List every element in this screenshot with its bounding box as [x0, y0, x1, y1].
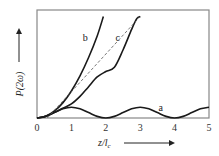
curve-c	[37, 16, 140, 118]
curve-b	[37, 16, 103, 118]
x-tick-label: 3	[138, 122, 143, 133]
series-layer	[37, 16, 209, 118]
curve-c-average	[47, 16, 140, 118]
x-tick-label: 2	[103, 122, 108, 133]
y-axis-label: P(2ω)	[14, 71, 26, 97]
x-tick-label: 4	[172, 122, 177, 133]
x-tick-label: 5	[207, 122, 212, 133]
x-tick-labels: 012345	[35, 122, 212, 133]
curve-label-c: c	[116, 32, 121, 43]
curve-label-a: a	[159, 102, 164, 113]
curve-label-b: b	[83, 32, 88, 43]
x-tick-label: 1	[69, 122, 74, 133]
chart: 012345 abc z/lc P(2ω)	[0, 0, 219, 156]
x-tick-label: 0	[35, 122, 40, 133]
x-axis-label: z/lc	[97, 137, 111, 150]
x-axis-label-subscript: c	[107, 142, 111, 150]
